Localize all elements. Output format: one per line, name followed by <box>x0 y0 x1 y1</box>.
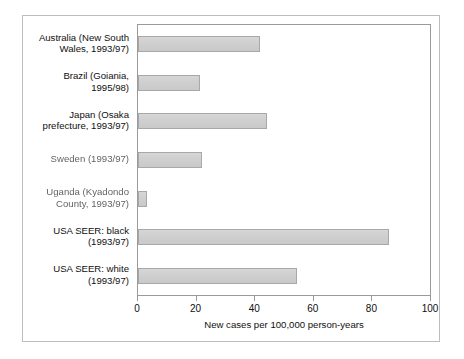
x-axis-tick <box>371 296 372 301</box>
bars-layer <box>138 25 431 295</box>
x-axis: 020406080100 <box>137 296 431 336</box>
figure-frame: Australia (New SouthWales, 1993/97)Brazi… <box>22 15 440 342</box>
bar-chart: Australia (New SouthWales, 1993/97)Brazi… <box>23 16 441 343</box>
category-label-line: Japan (Osaka <box>69 109 129 120</box>
category-label: Sweden (1993/97) <box>25 153 129 165</box>
category-axis-labels: Australia (New SouthWales, 1993/97)Brazi… <box>23 24 135 296</box>
category-label-line: (1993/97) <box>25 275 129 287</box>
x-axis-tick <box>254 296 255 301</box>
x-axis-title: New cases per 100,000 person-years <box>137 319 431 330</box>
x-axis-tick-label: 20 <box>190 303 201 314</box>
category-label: Brazil (Goiania,1995/98) <box>25 70 129 93</box>
bar <box>138 191 147 207</box>
bar <box>138 268 297 284</box>
category-label-line: Australia (New South <box>39 32 129 43</box>
bar <box>138 229 389 245</box>
category-label-line: Brazil (Goiania, <box>63 70 129 81</box>
x-axis-tick-label: 100 <box>422 303 439 314</box>
x-axis-tick <box>430 296 431 301</box>
category-label-line: Sweden (1993/97) <box>51 153 129 164</box>
bar <box>138 152 202 168</box>
category-label-line: prefecture, 1993/97) <box>25 120 129 132</box>
bar <box>138 36 260 52</box>
x-axis-tick-label: 0 <box>134 303 140 314</box>
x-axis-tick-label: 80 <box>366 303 377 314</box>
category-label: USA SEER: white(1993/97) <box>25 263 129 286</box>
category-label-line: Wales, 1993/97) <box>25 43 129 55</box>
category-label-line: 1995/98) <box>25 82 129 94</box>
category-label-line: County, 1993/97) <box>25 198 129 210</box>
category-label: Uganda (KyadondoCounty, 1993/97) <box>25 186 129 209</box>
bar <box>138 75 200 91</box>
x-axis-tick <box>137 296 138 301</box>
category-label: USA SEER: black(1993/97) <box>25 225 129 248</box>
category-label: Australia (New SouthWales, 1993/97) <box>25 32 129 55</box>
x-axis-tick-label: 40 <box>249 303 260 314</box>
x-axis-tick-label: 60 <box>307 303 318 314</box>
category-label-line: Uganda (Kyadondo <box>46 186 129 197</box>
x-axis-tick <box>313 296 314 301</box>
bar <box>138 113 267 129</box>
category-label-line: (1993/97) <box>25 236 129 248</box>
category-label: Japan (Osakaprefecture, 1993/97) <box>25 109 129 132</box>
x-axis-tick <box>196 296 197 301</box>
category-label-line: USA SEER: white <box>53 263 129 274</box>
category-label-line: USA SEER: black <box>53 225 129 236</box>
